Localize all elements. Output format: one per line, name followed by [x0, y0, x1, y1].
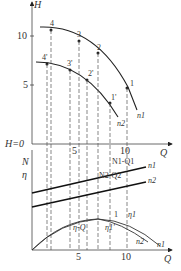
n1q1-label: N1-Q1 — [112, 158, 134, 166]
line-n1: n1 — [148, 162, 156, 170]
bq-label: Q — [164, 254, 171, 264]
n-axis-label: N — [22, 157, 29, 167]
pump-characteristic-diagram: H 10 5 H=0 5 10 Q n1 n2 1 2 3 4 1' 2' 3'… — [0, 0, 181, 271]
q-tick-5: 5 — [72, 146, 77, 156]
pt-2p: 2' — [88, 70, 93, 78]
pt-3: 3 — [77, 31, 81, 39]
baseline-label: H=0 — [5, 139, 24, 149]
pt-2: 2 — [97, 44, 101, 52]
pt-1p: 1' — [111, 94, 116, 102]
pt-4: 4 — [50, 20, 54, 28]
n1-q1-line — [32, 167, 146, 193]
bq-tick-5: 5 — [76, 252, 81, 262]
n2-label: n2 — [117, 120, 125, 128]
h-q-curve-n2 — [36, 62, 118, 117]
diagram-graphics — [0, 0, 181, 271]
pt-1: 1 — [130, 80, 134, 88]
n1-label: n1 — [137, 112, 145, 120]
pt-3p: 3' — [67, 60, 72, 68]
h-axis-label: H — [34, 0, 41, 10]
eff-n2: n2 — [136, 238, 144, 246]
tick-10: 10 — [17, 31, 27, 41]
q-label: Q — [160, 148, 167, 158]
q-tick-10: 10 — [120, 146, 130, 156]
eta-q-label: η-Q — [73, 224, 85, 232]
eta1p-label: η1' — [105, 224, 115, 232]
bq-tick-10: 10 — [121, 252, 131, 262]
n2-q2-line — [32, 182, 146, 207]
pt-1-eff: 1 — [114, 211, 118, 219]
tick-5: 5 — [23, 80, 28, 90]
line-n2: n2 — [148, 177, 156, 185]
n2q2-label: N2-Q2 — [99, 172, 121, 180]
pt-4p: 4' — [42, 54, 47, 62]
eta-curve-n2 — [32, 219, 148, 250]
eff-n1: n1 — [157, 241, 165, 249]
eta-axis-label: η — [22, 170, 27, 180]
eta1-label: η1 — [128, 211, 136, 219]
